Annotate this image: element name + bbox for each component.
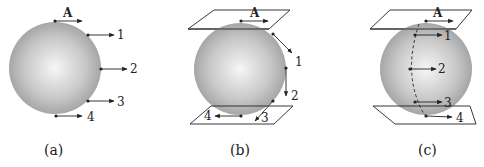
label-a: A [432, 6, 443, 20]
panel-a: A 1 2 3 4 (a) [9, 6, 138, 158]
panel-b: A 1 2 3 4 (b) [188, 6, 303, 158]
label-3: 3 [117, 95, 125, 109]
figure-canvas: A 1 2 3 4 (a) A 1 [0, 0, 484, 167]
label-3: 3 [444, 96, 452, 110]
label-2: 2 [291, 89, 299, 103]
label-1: 1 [444, 29, 452, 43]
label-3: 3 [261, 111, 269, 125]
label-4: 4 [87, 110, 95, 124]
label-2: 2 [438, 62, 446, 76]
label-1: 1 [295, 55, 303, 69]
label-4: 4 [204, 109, 212, 123]
label-1: 1 [117, 28, 125, 42]
caption-c: (c) [418, 142, 437, 158]
label-a: A [62, 6, 73, 20]
arrow-4 [426, 116, 452, 117]
label-4: 4 [456, 111, 464, 125]
caption-a: (a) [44, 142, 63, 158]
label-2: 2 [130, 62, 138, 76]
panel-c: A 1 2 3 4 (c) [370, 6, 476, 158]
label-a: A [249, 6, 260, 20]
caption-b: (b) [230, 142, 250, 158]
